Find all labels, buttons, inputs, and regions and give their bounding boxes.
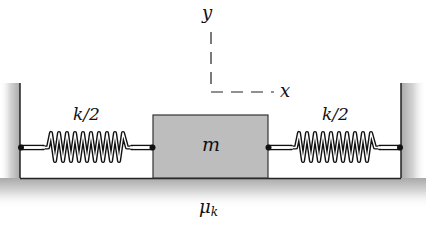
left-spring-label: k/2 — [73, 106, 100, 123]
left-wall — [0, 83, 20, 183]
spring-mass-diagram: y x k/2 k/2 m μk — [0, 0, 426, 226]
left-spring — [18, 133, 156, 161]
mu-symbol: μ — [199, 196, 211, 217]
right-spring — [266, 133, 404, 161]
y-axis-label: y — [202, 4, 212, 22]
mu-subscript: k — [211, 205, 218, 219]
mass-label: m — [202, 135, 220, 154]
coordinate-axes — [211, 32, 274, 92]
diagram-canvas — [0, 0, 426, 226]
right-wall — [401, 83, 426, 183]
x-axis-label: x — [280, 82, 290, 100]
friction-coefficient-label: μk — [199, 198, 218, 218]
right-spring-label: k/2 — [322, 106, 349, 123]
